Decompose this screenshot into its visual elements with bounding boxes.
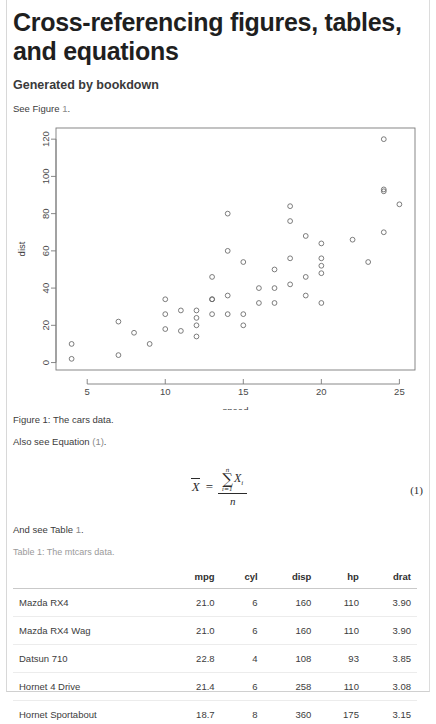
table-cell-disp: 258 — [264, 673, 318, 701]
scatter-point — [288, 219, 293, 224]
table-row: Mazda RX4 Wag21.061601103.90 — [13, 617, 417, 645]
y-axis-tick-label: 40 — [41, 283, 52, 294]
table-col-header-mpg: mpg — [166, 567, 221, 589]
table-cell-drat: 3.85 — [365, 645, 417, 673]
scatter-point — [194, 334, 199, 339]
scatter-point — [319, 263, 324, 268]
table-ref-prefix: And see Table — [13, 524, 76, 535]
scatter-point — [303, 275, 308, 280]
scatter-point — [303, 234, 308, 239]
document-content: Cross-referencing figures, tables, and e… — [13, 0, 425, 724]
table-cell-mpg: 21.0 — [166, 617, 221, 645]
table-cell-cyl: 6 — [221, 673, 264, 701]
mtcars-table: mpgcyldisphpdrat Mazda RX421.061601103.9… — [13, 567, 417, 724]
equation-reference-paragraph: Also see Equation (1). — [13, 436, 425, 447]
scatter-point — [350, 237, 355, 242]
equation-ref-suffix: . — [104, 436, 107, 447]
scatter-point — [381, 137, 386, 142]
table-cell-cyl: 6 — [221, 589, 264, 617]
table-row: Datsun 71022.84108933.85 — [13, 645, 417, 673]
figure-ref-suffix: . — [67, 103, 70, 114]
table-cell-disp: 160 — [264, 617, 318, 645]
table-cell-drat: 3.90 — [365, 589, 417, 617]
table-ref-suffix: . — [81, 524, 84, 535]
scatter-point — [241, 260, 246, 265]
scatter-point — [319, 271, 324, 276]
scatter-point — [194, 308, 199, 313]
table-cell-mpg: 21.0 — [166, 589, 221, 617]
table-cell-rowname: Mazda RX4 Wag — [13, 617, 166, 645]
y-axis-tick-label: 100 — [41, 168, 52, 184]
table-cell-disp: 360 — [264, 701, 318, 724]
y-axis-tick-label: 60 — [41, 246, 52, 257]
scatter-point — [241, 312, 246, 317]
scatter-point — [69, 356, 74, 361]
equation-body: X = n ∑ i=1 Xi n — [13, 467, 425, 507]
sum-lower-limit: i=1 — [222, 486, 233, 492]
table-cell-drat: 3.08 — [365, 673, 417, 701]
equation-fraction: n ∑ i=1 Xi n — [218, 467, 247, 507]
scatter-point — [397, 202, 402, 207]
x-axis-tick-label: 15 — [238, 386, 249, 397]
table-col-header-hp: hp — [317, 567, 365, 589]
table-cell-mpg: 22.8 — [166, 645, 221, 673]
scatter-point — [147, 342, 152, 347]
scatter-point — [288, 204, 293, 209]
scatter-point — [69, 342, 74, 347]
table-cell-hp: 93 — [317, 645, 365, 673]
table-cell-drat: 3.90 — [365, 617, 417, 645]
scatter-point — [241, 323, 246, 328]
y-axis-tick-label: 120 — [41, 131, 52, 147]
scatter-point — [178, 329, 183, 334]
scatter-point — [225, 312, 230, 317]
table-cell-rowname: Hornet Sportabout — [13, 701, 166, 724]
scatter-point — [381, 230, 386, 235]
table-cell-hp: 110 — [317, 589, 365, 617]
scatter-point — [225, 211, 230, 216]
scatter-point — [116, 353, 121, 358]
x-axis-tick-label: 25 — [394, 386, 405, 397]
table-cell-hp: 175 — [317, 701, 365, 724]
figure-ref-prefix: See Figure — [13, 103, 62, 114]
scatter-point — [319, 256, 324, 261]
scatter-point — [210, 297, 215, 302]
scatter-point — [319, 301, 324, 306]
scatter-point — [319, 241, 324, 246]
summand-subscript: i — [241, 480, 243, 488]
table-caption: Table 1: The mtcars data. — [13, 547, 425, 557]
scatter-point — [257, 286, 262, 291]
scatter-point — [225, 248, 230, 253]
scatter-point — [272, 267, 277, 272]
table-cell-disp: 108 — [264, 645, 318, 673]
table-cell-rowname: Mazda RX4 — [13, 589, 166, 617]
equation-lhs: X — [191, 479, 201, 495]
scatter-plot-svg: 020406080100120510152025speeddist — [13, 122, 425, 410]
scatter-point — [163, 327, 168, 332]
table-cell-rowname: Hornet 4 Drive — [13, 673, 166, 701]
scatter-point — [366, 260, 371, 265]
table-row: Hornet Sportabout18.783601753.15 — [13, 701, 417, 724]
table-col-header-drat: drat — [365, 567, 417, 589]
scatter-point — [225, 293, 230, 298]
figure-cars-scatterplot: 020406080100120510152025speeddist — [13, 122, 425, 412]
table-cell-hp: 110 — [317, 617, 365, 645]
table-cell-rowname: Datsun 710 — [13, 645, 166, 673]
summation-operator: n ∑ i=1 — [222, 467, 233, 492]
equation-ref-link[interactable]: (1) — [92, 436, 104, 447]
scatter-point — [272, 286, 277, 291]
y-axis-tick-label: 20 — [41, 320, 52, 331]
x-axis-tick-label: 10 — [160, 386, 171, 397]
scatter-point — [163, 312, 168, 317]
equation-equals-sign: = — [206, 479, 213, 495]
table-body: Mazda RX421.061601103.90Mazda RX4 Wag21.… — [13, 589, 417, 724]
scatter-point — [116, 319, 121, 324]
table-cell-mpg: 21.4 — [166, 673, 221, 701]
fraction-denominator: n — [226, 494, 240, 507]
table-col-header-rowname — [13, 567, 166, 589]
figure-caption: Figure 1: The cars data. — [13, 414, 425, 425]
table-row: Hornet 4 Drive21.462581103.08 — [13, 673, 417, 701]
equation-lhs-symbol: X — [192, 479, 200, 494]
table-col-header-cyl: cyl — [221, 567, 264, 589]
scatter-point — [194, 315, 199, 320]
scatter-point — [163, 297, 168, 302]
